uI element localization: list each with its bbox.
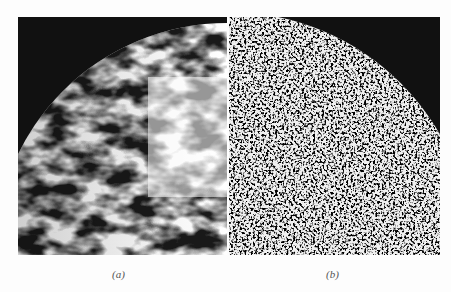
panel-b-image <box>229 17 440 255</box>
panel-a-label: (a) <box>112 268 125 280</box>
panel-a-image <box>18 17 227 255</box>
panel-b-label: (b) <box>326 268 339 280</box>
speckle-texture-image <box>229 17 440 255</box>
domain-texture-image <box>18 17 227 255</box>
